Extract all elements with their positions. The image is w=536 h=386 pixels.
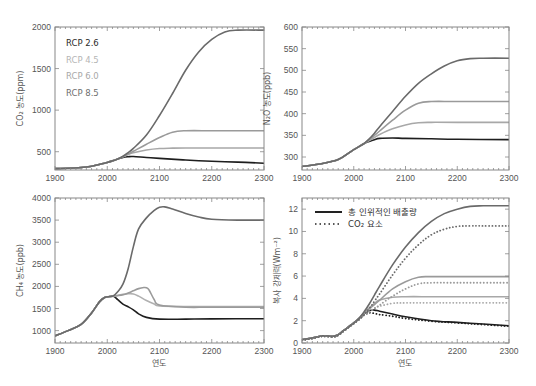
y-axis-label: CH₄ 농도(ppb)	[16, 244, 25, 297]
y-tick-label: 300	[284, 152, 298, 162]
legend-total-anthropogenic: 총 인위적인 배출량	[348, 207, 417, 217]
series-line	[55, 296, 264, 336]
y-tick-label: 400	[284, 109, 298, 119]
series-line	[55, 207, 264, 336]
x-axis-label-right: 연도	[398, 359, 412, 368]
y-tick-label: 4000	[32, 193, 51, 203]
y-tick-label: 1500	[32, 304, 51, 314]
x-tick-label: 2000	[98, 173, 117, 183]
y-tick-label: 2	[293, 316, 298, 326]
plot-frame	[302, 198, 509, 343]
y-tick-label: 2500	[32, 259, 51, 269]
y-tick-label: 450	[284, 87, 298, 97]
series-line	[302, 101, 509, 166]
legend-rcp60: RCP 6.0	[66, 71, 99, 81]
series-line	[302, 58, 509, 166]
x-tick-label: 2100	[396, 346, 415, 356]
x-tick-label: 2000	[344, 346, 363, 356]
y-tick-label: 3000	[32, 237, 51, 247]
series-line	[55, 294, 264, 336]
y-tick-label: 600	[284, 22, 298, 32]
rcp-legend: RCP 2.6 RCP 4.5 RCP 6.0 RCP 8.5	[66, 38, 99, 98]
x-tick-label: 2300	[500, 173, 519, 183]
x-tick-label: 2000	[344, 173, 363, 183]
x-tick-label: 2200	[202, 346, 221, 356]
x-tick-label: 2200	[448, 173, 467, 183]
series-line	[55, 131, 264, 169]
series-line	[302, 277, 509, 340]
x-tick-label: 1900	[46, 173, 65, 183]
y-tick-label: 10	[289, 226, 299, 236]
y-tick-label: 0	[293, 338, 298, 348]
legend-co2-component: CO₂ 요소	[348, 219, 383, 229]
figure: 19002000210022002300500100015002000CO₂ 농…	[0, 0, 536, 386]
plot-frame	[302, 27, 509, 170]
x-tick-label: 2300	[255, 346, 274, 356]
y-tick-label: 8	[293, 249, 298, 259]
series-line	[55, 287, 264, 336]
y-tick-label: 6	[293, 271, 298, 281]
y-tick-label: 2000	[32, 281, 51, 291]
n2o-concentration-chart: 1900200021002200230030035040045050055060…	[263, 22, 519, 183]
x-tick-label: 2200	[448, 346, 467, 356]
co2-concentration-chart: 19002000210022002300500100015002000CO₂ 농…	[16, 22, 274, 183]
y-tick-label: 12	[289, 204, 299, 214]
y-tick-label: 4	[293, 293, 298, 303]
y-tick-label: 500	[37, 147, 51, 157]
x-tick-label: 2300	[500, 346, 519, 356]
series-line	[302, 283, 509, 341]
y-axis-label: CO₂ 농도(ppm)	[16, 71, 25, 127]
x-tick-label: 2300	[255, 173, 274, 183]
y-tick-label: 550	[284, 44, 298, 54]
radiative-forcing-chart: 19002000210022002300024681012복사 강제력(Wm⁻²…	[272, 198, 519, 356]
series-group	[55, 207, 264, 336]
y-axis-label: 복사 강제력(Wm⁻²)	[272, 237, 282, 304]
series-line	[302, 206, 509, 340]
series-group	[302, 58, 509, 166]
forcing-legend: 총 인위적인 배출량 CO₂ 요소	[315, 207, 417, 229]
x-tick-label: 2200	[202, 173, 221, 183]
series-line	[302, 303, 509, 340]
ch4-concentration-chart: 1900200021002200230010001500200025003000…	[16, 193, 274, 356]
x-tick-label: 2100	[150, 346, 169, 356]
series-line	[302, 122, 509, 166]
x-tick-label: 2000	[98, 346, 117, 356]
y-tick-label: 500	[284, 65, 298, 75]
y-tick-label: 3500	[32, 215, 51, 225]
x-axis-label-left: 연도	[152, 359, 166, 368]
y-tick-label: 1500	[32, 64, 51, 74]
series-line	[302, 138, 509, 167]
y-tick-label: 1000	[32, 326, 51, 336]
y-tick-label: 350	[284, 130, 298, 140]
series-group	[302, 206, 509, 340]
series-group	[55, 30, 264, 169]
legend-rcp26: RCP 2.6	[66, 38, 99, 48]
y-tick-label: 1000	[32, 105, 51, 115]
legend-rcp85: RCP 8.5	[66, 88, 99, 98]
x-tick-label: 1900	[293, 173, 312, 183]
legend-rcp45: RCP 4.5	[66, 55, 99, 65]
x-tick-label: 2100	[396, 173, 415, 183]
y-tick-label: 2000	[32, 22, 51, 32]
y-axis-label: N₂O 농도(ppb)	[263, 72, 272, 126]
x-tick-label: 1900	[46, 346, 65, 356]
x-tick-label: 2100	[150, 173, 169, 183]
